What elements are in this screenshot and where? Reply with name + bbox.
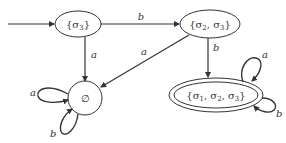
svg-text:{σ1, σ2, σ3}: {σ1, σ2, σ3} [186, 90, 245, 103]
edge-label-a: a [91, 49, 97, 60]
svg-text:∅: ∅ [81, 93, 90, 104]
edge-label-b: b [213, 42, 219, 53]
state-empty: ∅ [68, 81, 102, 115]
edge-label-a: a [141, 46, 147, 57]
edge-label-b: b [138, 11, 144, 22]
loop-empty-b [60, 109, 78, 134]
svg-text:{σ3}: {σ3} [66, 19, 90, 32]
loop-empty-a [38, 88, 68, 102]
loop-s123-b [254, 98, 276, 112]
loop-s123-a [242, 58, 261, 82]
state-s3: {σ3} [55, 11, 101, 37]
state-s23: {σ2, σ3} [180, 10, 240, 38]
loop-label-b: b [50, 128, 56, 139]
state-s123-accepting: {σ1, σ2, σ3} [169, 78, 263, 112]
svg-text:{σ2, σ3}: {σ2, σ3} [189, 19, 231, 32]
loop-label-a: a [262, 49, 268, 60]
edge-s23-empty [101, 35, 189, 87]
loop-label-b: b [276, 108, 282, 119]
loop-label-a: a [30, 87, 36, 98]
dfa-diagram: {σ3} b {σ2, σ3} a a b ∅ a b {σ1, σ2, σ3}… [0, 0, 286, 143]
